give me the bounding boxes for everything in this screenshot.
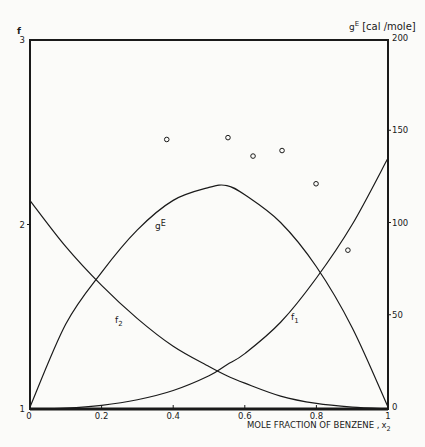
left-axis-title: f <box>17 26 21 36</box>
right-axis-ticks: 050100150200 <box>387 33 408 412</box>
curve-label-f1: f1 <box>291 312 299 325</box>
x-tick-label: 0.4 <box>166 411 180 421</box>
left-tick-label: 2 <box>20 220 25 230</box>
right-tick-label: 50 <box>392 310 403 320</box>
x-axis-title: MOLE FRACTION OF BENZENE ,x2 <box>247 420 391 433</box>
left-tick-label: 1 <box>20 404 25 414</box>
left-tick-label: 3 <box>20 35 25 45</box>
right-axis-title: gE[cal /mole] <box>349 20 416 32</box>
curve-f1 <box>30 158 388 409</box>
x-tick-label: 0.2 <box>95 411 109 421</box>
curve-label-gE: gE <box>155 219 166 231</box>
right-tick-label: 200 <box>392 33 408 43</box>
data-point <box>280 148 285 153</box>
right-tick-label: 150 <box>392 125 408 135</box>
chart: 00.20.40.60.81 123 050100150200 f gE[cal… <box>0 0 425 447</box>
data-point <box>164 137 169 142</box>
data-point <box>314 181 319 186</box>
plot-frame <box>30 40 388 409</box>
data-point <box>346 248 351 253</box>
curve-gE <box>30 185 388 407</box>
right-tick-label: 0 <box>392 402 397 412</box>
right-tick-label: 100 <box>392 218 408 228</box>
curve-label-f2: f2 <box>115 315 123 328</box>
data-point <box>226 135 231 140</box>
curve-f2 <box>30 201 388 409</box>
x-tick-label: 0 <box>26 411 31 421</box>
data-points <box>164 135 350 252</box>
data-point <box>251 154 256 159</box>
curves <box>30 158 388 409</box>
